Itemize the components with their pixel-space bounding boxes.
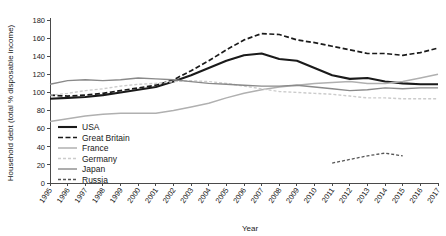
x-tick-label: 2000	[125, 186, 142, 205]
x-tick-label: 2008	[266, 186, 283, 205]
x-tick-label: 1998	[90, 186, 107, 205]
y-tick-label: 80	[37, 106, 45, 115]
x-tick-label: 2001	[143, 186, 160, 205]
x-tick-label: 2004	[196, 186, 213, 205]
series-line-russia	[332, 153, 403, 163]
y-tick-label: 100	[32, 88, 45, 97]
y-tick-label: 20	[37, 161, 45, 170]
x-tick-label: 2016	[408, 186, 425, 205]
chart-figure: 020406080100120140160180 199519961997199…	[0, 0, 446, 236]
x-tick-label: 2002	[161, 186, 178, 205]
y-tick-label: 180	[32, 16, 45, 25]
x-tick-label: 2010	[302, 186, 319, 205]
y-tick-label: 0	[41, 179, 45, 188]
x-axis: 1995199619971998199920002001200220032004…	[37, 183, 442, 205]
y-tick-label: 120	[32, 70, 45, 79]
x-tick-label: 2013	[355, 186, 372, 205]
x-tick-label: 2009	[284, 186, 301, 205]
x-tick-label: 2007	[249, 186, 266, 205]
x-tick-label: 2017	[425, 186, 442, 205]
x-tick-label: 1995	[37, 186, 54, 205]
y-tick-label: 60	[37, 124, 45, 133]
x-tick-label: 2006	[231, 186, 248, 205]
y-tick-label: 140	[32, 52, 45, 61]
y-axis-title: Household debt (total % disposable incom…	[6, 24, 15, 181]
legend-label-france: France	[82, 143, 109, 153]
x-tick-label: 1997	[72, 186, 89, 205]
y-tick-label: 160	[32, 34, 45, 43]
x-tick-label: 2003	[178, 186, 195, 205]
x-tick-label: 1996	[55, 186, 72, 205]
y-tick-label: 40	[37, 143, 45, 152]
y-axis: 020406080100120140160180	[32, 16, 50, 188]
legend-label-great-britain: Great Britain	[82, 133, 130, 143]
legend-label-japan: Japan	[82, 164, 105, 174]
chart-legend: USAGreat BritainFranceGermanyJapanRussia	[58, 122, 130, 185]
x-tick-label: 2012	[337, 186, 354, 205]
series-line-usa	[50, 54, 438, 99]
legend-label-germany: Germany	[82, 154, 118, 164]
legend-label-usa: USA	[82, 122, 100, 132]
legend-label-russia: Russia	[82, 175, 108, 185]
x-axis-title: Year	[242, 224, 259, 233]
x-tick-label: 2011	[320, 186, 337, 204]
x-tick-label: 2014	[372, 186, 389, 205]
x-tick-label: 1999	[108, 186, 125, 205]
x-tick-label: 2015	[390, 186, 407, 205]
x-tick-label: 2005	[214, 186, 231, 205]
line-chart: 020406080100120140160180 199519961997199…	[0, 0, 446, 236]
